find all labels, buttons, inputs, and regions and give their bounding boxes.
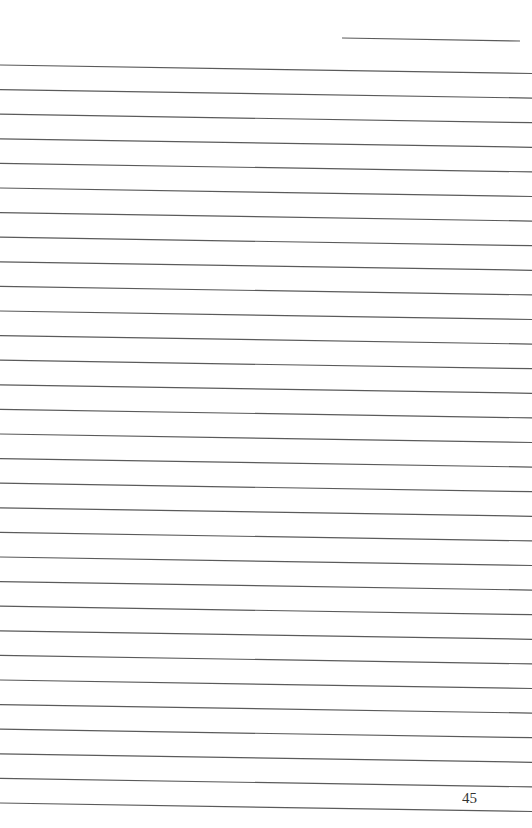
ruled-line bbox=[0, 582, 532, 591]
ruled-line bbox=[0, 336, 532, 345]
ruled-line bbox=[0, 311, 532, 320]
ruled-line bbox=[0, 213, 532, 222]
ruled-line bbox=[0, 606, 532, 615]
ruled-line bbox=[0, 631, 532, 640]
ruled-line bbox=[0, 262, 532, 271]
ruled-line bbox=[0, 139, 532, 148]
page-number: 45 bbox=[462, 790, 477, 807]
ruled-line bbox=[0, 237, 532, 246]
ruled-line bbox=[0, 655, 532, 664]
ruled-line bbox=[0, 680, 532, 689]
header-line bbox=[342, 38, 520, 41]
ruled-line bbox=[0, 803, 532, 812]
ruled-line bbox=[0, 532, 532, 541]
ruled-line bbox=[0, 705, 532, 714]
ruled-line bbox=[0, 459, 532, 468]
ruled-line bbox=[0, 286, 532, 295]
ruled-line bbox=[0, 114, 532, 123]
ruled-line bbox=[0, 729, 532, 738]
ruled-line bbox=[0, 409, 532, 418]
ruled-line bbox=[0, 754, 532, 763]
ruled-line bbox=[0, 163, 532, 172]
ruled-lines bbox=[0, 0, 532, 828]
ruled-line bbox=[0, 188, 532, 197]
ruled-line bbox=[0, 557, 532, 566]
ruled-line bbox=[0, 360, 532, 369]
ruled-line bbox=[0, 508, 532, 517]
ruled-line bbox=[0, 483, 532, 492]
ruled-line bbox=[0, 434, 532, 443]
notebook-page: 45 bbox=[0, 0, 532, 828]
ruled-line bbox=[0, 778, 532, 787]
ruled-line bbox=[0, 65, 532, 74]
ruled-line bbox=[0, 385, 532, 394]
ruled-line bbox=[0, 90, 532, 99]
